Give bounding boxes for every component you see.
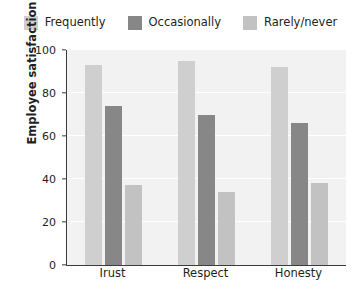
legend-swatch-occasionally (128, 16, 142, 30)
bar[interactable] (178, 61, 195, 265)
chart-legend: FrequentlyOccasionallyRarely/never (0, 12, 361, 34)
x-tick-label: Honesty (275, 268, 322, 280)
legend-item-occasionally[interactable]: Occasionally (128, 16, 222, 30)
x-tick-label: Respect (183, 268, 229, 280)
y-tick-label-60: 60 (42, 131, 56, 142)
x-axis-ticks: IrustRespectHonesty (66, 268, 345, 288)
bar[interactable] (218, 192, 235, 265)
bar[interactable] (85, 65, 102, 265)
legend-label: Rarely/never (264, 17, 337, 29)
bar[interactable] (125, 185, 142, 265)
bar[interactable] (105, 106, 122, 265)
bar-group (67, 50, 160, 265)
x-tick-label: Irust (100, 268, 126, 280)
legend-item-rarely-never[interactable]: Rarely/never (243, 16, 337, 30)
plot-area (67, 50, 346, 265)
legend-swatch-rarely-never (243, 16, 257, 30)
y-tick-label-0: 0 (49, 260, 56, 271)
legend-label: Frequently (45, 17, 106, 29)
bar-group (253, 50, 346, 265)
bar[interactable] (311, 183, 328, 265)
bar[interactable] (291, 123, 308, 265)
y-tick-label-40: 40 (42, 174, 56, 185)
bar-group (160, 50, 253, 265)
y-tick-label-80: 80 (42, 88, 56, 99)
legend-label: Occasionally (149, 17, 222, 29)
bar-chart-figure: FrequentlyOccasionallyRarely/never Emplo… (0, 0, 361, 293)
bar[interactable] (198, 115, 215, 266)
bar[interactable] (271, 67, 288, 265)
plot-frame (66, 50, 346, 266)
y-tick-label-20: 20 (42, 217, 56, 228)
y-tick-label-100: 100 (35, 45, 56, 56)
y-axis-ticks: 020406080100 (0, 50, 66, 265)
